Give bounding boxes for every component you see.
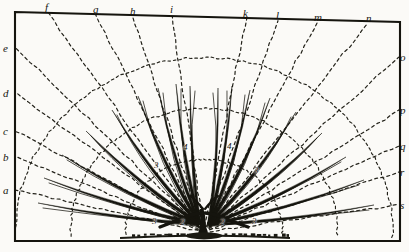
left-label-c-2: c [3,126,8,137]
top-label-k-4: k [243,8,248,19]
soil-clod [268,235,270,238]
right-label-r-3: r [400,167,404,178]
soil-clod [157,234,162,237]
soil-clod [251,233,256,237]
top-label-h-2: h [130,6,136,17]
branch-layer [38,84,374,226]
soil-clod [232,233,236,235]
soil-clod [168,234,172,237]
soil-clod [238,233,242,235]
soil-clod [144,234,147,236]
top-label-i-3: i [170,4,173,15]
figure-canvas [0,0,409,252]
soil-clod [177,233,180,236]
soil-clod [257,234,261,236]
soil-clod [263,234,266,236]
top-label-l-5: l [276,10,279,21]
polar-spoke-layer [15,13,399,232]
soil-clod [282,234,286,237]
engraving-plate: fghiklmn edcba opqrs 34433223 [0,0,409,252]
order-label-3-3: 3 [254,166,259,175]
right-label-q-2: q [400,141,406,152]
order-label-3-0: 3 [154,161,159,170]
spoke-g [96,14,204,232]
left-label-e-0: e [3,43,8,54]
root-mound [186,232,222,239]
soil-clod [137,235,140,238]
soil-clod [180,233,185,235]
soil-clod [244,234,248,237]
top-label-f-0: f [45,2,48,13]
top-label-m-6: m [314,12,322,23]
soil-clod [274,234,278,238]
right-label-p-1: p [400,105,406,116]
order-label-4-1: 4 [183,143,188,152]
soil-clod [132,234,135,237]
order-label-3-7: 3 [252,217,257,226]
top-label-n-7: n [366,13,372,24]
order-label-2-5: 2 [180,218,185,227]
right-label-o-0: o [400,52,406,63]
order-label-4-2: 4 [227,142,232,151]
top-label-g-1: g [93,4,99,15]
order-label-2-6: 2 [220,218,225,227]
right-label-s-4: s [400,200,404,211]
left-label-a-4: a [3,185,9,196]
left-label-d-1: d [3,88,9,99]
left-label-b-3: b [3,152,9,163]
soil-clod [287,234,290,237]
ground-layer [120,232,290,239]
soil-clod [225,233,228,236]
order-label-3-4: 3 [152,217,157,226]
soil-clod [150,234,155,236]
